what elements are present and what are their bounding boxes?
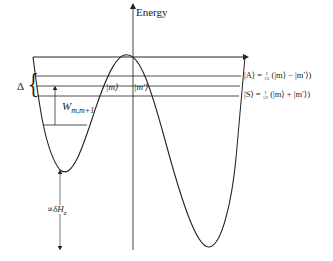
fraction: 1√2: [264, 71, 269, 81]
zeeman-label: ∝δHz: [47, 204, 67, 217]
w-main: W: [62, 100, 71, 112]
energy-axis-label: Energy: [136, 6, 168, 18]
sym-rhs: (|m⟩ + |m′⟩): [270, 89, 310, 99]
ket-mprime-label: |m′⟩: [134, 82, 148, 92]
delta-label: Δ: [17, 80, 24, 92]
double-well-diagram: [0, 0, 333, 261]
antisymmetric-state-label: |A⟩ = 1√2 (|m⟩ − |m′⟩): [244, 70, 311, 81]
antisym-rhs: (|m⟩ − |m′⟩): [272, 70, 312, 80]
frac-den: √2: [264, 76, 269, 81]
antisym-lhs: |A⟩ =: [244, 70, 264, 80]
symmetric-state-label: |S⟩ = 1√2 (|m⟩ + |m′⟩): [244, 89, 310, 100]
sym-lhs: |S⟩ =: [244, 89, 263, 99]
brace-icon: {: [27, 71, 39, 97]
fraction: 1√2: [263, 90, 268, 100]
transition-rate-label: Wm,m+1: [62, 100, 94, 115]
zeeman-main: ∝δH: [47, 204, 64, 214]
zeeman-sub: z: [64, 209, 67, 217]
w-sub: m,m+1: [71, 106, 94, 115]
frac-den: √2: [263, 95, 268, 100]
ket-m-label: |m⟩: [106, 82, 119, 92]
